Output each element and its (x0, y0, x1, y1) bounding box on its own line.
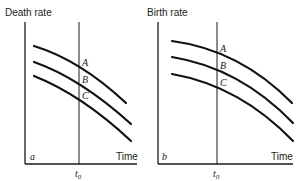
panel-b-birth-rate: Birth rate A B C b Time t0 (147, 7, 293, 181)
curve-label-b: B (82, 74, 88, 85)
y-axis-label: Death rate (5, 7, 52, 18)
panel-label: a (30, 151, 35, 162)
curve-a (34, 46, 126, 103)
x-axis-label: Time (116, 151, 138, 162)
curve-label-a: A (219, 43, 227, 54)
panel-a-death-rate: Death rate A B C a Time t0 (5, 7, 138, 181)
diagram-canvas: Death rate A B C a Time t0 Birth rate A … (0, 0, 301, 181)
x-axis-label: Time (271, 151, 293, 162)
y-axis-label: Birth rate (147, 7, 188, 18)
curve-label-a: A (81, 57, 89, 68)
curve-label-b: B (220, 60, 226, 71)
panel-label: b (162, 151, 167, 162)
curve-label-c: C (82, 90, 89, 101)
curve-b (172, 57, 293, 123)
t0-label: t0 (75, 168, 82, 181)
curve-label-c: C (220, 77, 227, 88)
t0-label: t0 (213, 168, 220, 181)
curve-c (172, 74, 293, 141)
